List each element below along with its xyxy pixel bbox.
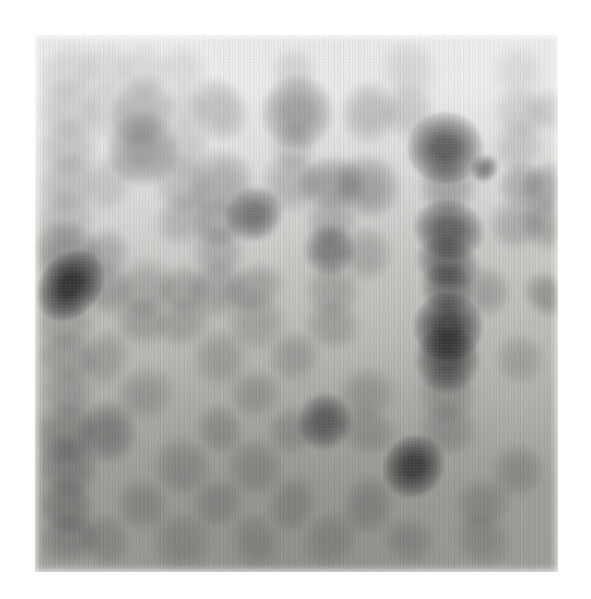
screenshot-canvas	[0, 0, 591, 599]
blot-membrane	[35, 35, 558, 572]
membrane-vignette	[35, 35, 558, 572]
